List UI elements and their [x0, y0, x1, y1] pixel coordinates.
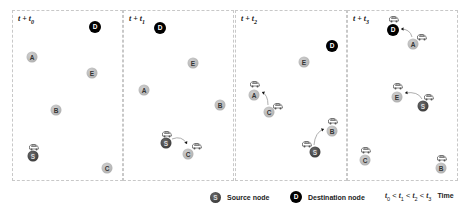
legend-destination: D Destination node [290, 190, 365, 204]
node-b: B [327, 126, 338, 137]
panel-time-label: t + t2 [241, 14, 257, 25]
node-b: B [215, 100, 226, 111]
legend-source: S Source node [210, 190, 269, 204]
destination-node-label: Destination node [308, 194, 365, 201]
legend-time-order: t0 < t1 < t2 < t3 Time [385, 191, 454, 202]
node-a: A [249, 90, 260, 101]
node-c: C [264, 107, 275, 118]
node-c: C [360, 155, 371, 166]
source-node-s: S [310, 147, 321, 158]
panel-t1: t + t1 [123, 10, 234, 181]
source-node-s: S [161, 138, 172, 149]
node-a: A [27, 52, 38, 63]
panel-time-label: t + t1 [129, 14, 145, 25]
node-c: C [183, 149, 194, 160]
source-node-s: S [418, 101, 429, 112]
destination-node-d: D [154, 22, 166, 34]
node-c: C [102, 163, 113, 174]
destination-node-d: D [89, 21, 101, 33]
time-label: Time [437, 192, 453, 199]
source-node-s: S [28, 151, 39, 162]
panel-time-label: t + t3 [353, 14, 369, 25]
node-b: B [51, 105, 62, 116]
node-e: E [188, 58, 199, 69]
destination-node-d: D [387, 24, 399, 36]
node-e: E [299, 57, 310, 68]
destination-node-icon: D [290, 191, 302, 203]
source-node-icon: S [210, 192, 221, 203]
source-node-label: Source node [227, 194, 269, 201]
destination-node-d: D [326, 40, 338, 52]
node-a: A [408, 39, 419, 50]
node-e: E [87, 68, 98, 79]
panel-time-label: t + t0 [18, 14, 34, 25]
node-b: B [436, 163, 447, 174]
node-e: E [392, 92, 403, 103]
node-a: A [139, 85, 150, 96]
